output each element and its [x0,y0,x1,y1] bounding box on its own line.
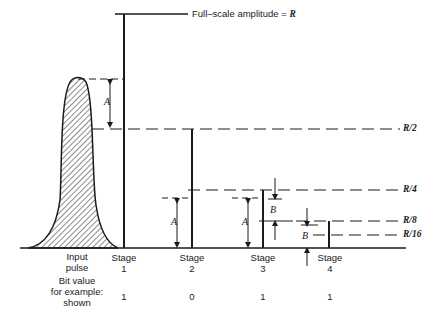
stage-3-label: Stage 3 [243,252,283,274]
dimension-a-stage1: A [104,96,110,107]
level-label-r8: R/8 [403,215,417,225]
bit-row-line1: Bit value [27,275,127,286]
dimension-a-stage2: A [171,216,177,227]
bit-row-line3: shown [27,297,127,308]
input-line1: Input [52,251,102,262]
stage-3-number: 3 [243,263,283,274]
input-line2: pulse [52,262,102,273]
level-label-r4: R/4 [403,184,417,194]
stage-2-number: 2 [172,263,212,274]
full-scale-text: Full–scale amplitude = [192,8,289,19]
dimension-a-stage3: A [242,216,248,227]
full-scale-label: Full–scale amplitude = R [192,8,296,19]
dimension-b-stage3: B [270,204,276,215]
bit-row-line2: for example: [27,286,127,297]
stage-2-word: Stage [172,252,212,263]
stage-1-word: Stage [104,252,144,263]
stage-2-bit: 0 [182,291,202,302]
stage-3-bit: 1 [253,291,273,302]
stage-1-label: Stage 1 [104,252,144,274]
dimension-b-stage4: B [302,230,308,241]
stage-4-word: Stage [310,252,350,263]
stage-3-word: Stage [243,252,283,263]
stage-4-number: 4 [310,263,350,274]
stage-2-label: Stage 2 [172,252,212,274]
stage-4-label: Stage 4 [310,252,350,274]
stage-4-bit: 1 [320,291,340,302]
stage-1-bit: 1 [114,291,134,302]
input-pulse-label: Input pulse [52,251,102,273]
level-label-r16: R/16 [403,229,421,239]
stage-1-number: 1 [104,263,144,274]
bit-value-label: Bit value for example: shown [27,275,127,308]
level-label-r2: R/2 [403,123,417,133]
full-scale-symbol: R [289,9,295,19]
